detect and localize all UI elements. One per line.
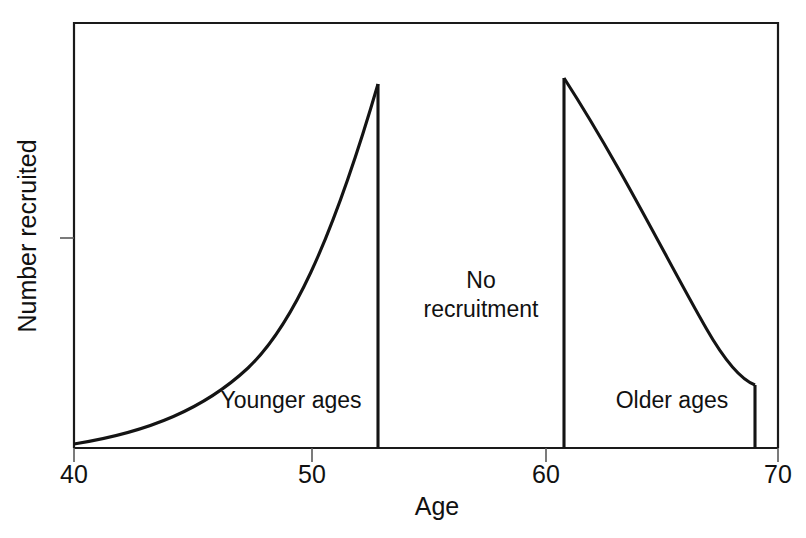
y-axis-title: Number recruited: [13, 139, 41, 332]
annotation-no-recruitment-line1: No: [466, 267, 495, 293]
annotation-older-ages: Older ages: [616, 387, 729, 413]
x-tick-label-40: 40: [60, 460, 88, 488]
chart-figure: 40 50 60 70 Age Number recruited Younger…: [0, 0, 806, 538]
x-tick-label-70: 70: [764, 460, 792, 488]
annotation-younger-ages: Younger ages: [220, 387, 361, 413]
annotation-no-recruitment-line2: recruitment: [423, 296, 539, 322]
x-axis-title: Age: [415, 492, 459, 520]
x-tick-label-50: 50: [298, 460, 326, 488]
recruitment-curve-chart: 40 50 60 70 Age Number recruited Younger…: [0, 0, 806, 538]
x-tick-label-60: 60: [532, 460, 560, 488]
chart-background: [0, 0, 806, 538]
